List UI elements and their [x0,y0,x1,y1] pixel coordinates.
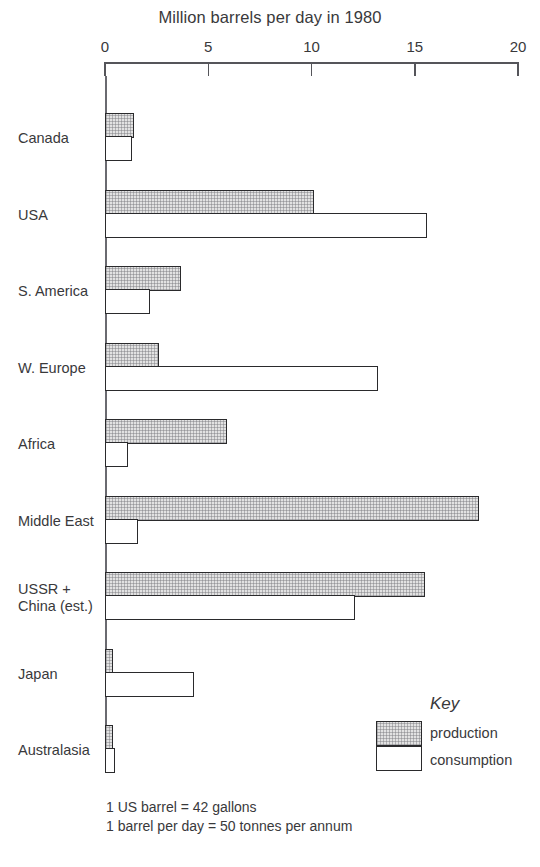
footnote-line-2: 1 barrel per day = 50 tonnes per annum [106,817,352,836]
category-label-7: Japan [18,666,102,683]
bar-consumption-8 [105,748,115,773]
category-label-2: S. America [18,283,102,300]
x-tick-10 [311,62,313,76]
x-tick-label-5: 5 [204,38,212,55]
legend-label-production: production [430,725,498,741]
x-tick-label-15: 15 [406,38,423,55]
x-tick-label-10: 10 [303,38,320,55]
x-tick-label-0: 0 [101,38,109,55]
x-tick-0 [104,62,106,76]
legend-label-consumption: consumption [430,752,512,768]
x-tick-5 [208,62,210,76]
bar-production-1 [105,190,314,215]
legend-swatch-consumption [376,746,422,771]
bar-production-4 [105,419,227,444]
category-label-1: USA [18,207,102,224]
bar-production-6 [105,572,425,597]
bar-consumption-1 [105,213,427,238]
category-label-0: Canada [18,130,102,147]
bar-consumption-4 [105,442,128,467]
category-label-8: Australasia [18,742,102,759]
category-label-6: USSR + China (est.) [18,581,102,615]
bar-production-8 [105,725,113,750]
bar-consumption-7 [105,672,194,697]
category-label-5: Middle East [18,513,102,530]
bar-consumption-3 [105,366,378,391]
bar-consumption-5 [105,519,138,544]
x-tick-label-20: 20 [510,38,527,55]
footnote-line-1: 1 US barrel = 42 gallons [106,798,352,817]
bar-consumption-0 [105,136,132,161]
legend-swatches [376,721,422,771]
bar-production-5 [105,496,479,521]
x-tick-15 [414,62,416,76]
bar-consumption-6 [105,595,355,620]
category-label-3: W. Europe [18,360,102,377]
category-label-4: Africa [18,436,102,453]
bar-production-3 [105,343,159,368]
legend-swatch-production [376,721,422,746]
x-tick-20 [517,62,519,76]
bar-production-0 [105,113,134,138]
bar-consumption-2 [105,289,150,314]
footnotes: 1 US barrel = 42 gallons 1 barrel per da… [106,798,352,836]
legend-title: Key [430,694,459,714]
bar-production-2 [105,266,181,291]
bar-production-7 [105,649,113,674]
